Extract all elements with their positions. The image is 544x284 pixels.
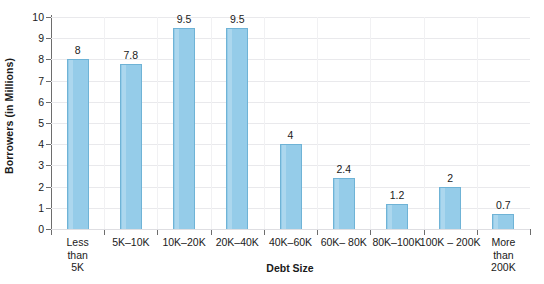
bar-highlight <box>69 60 73 229</box>
bar <box>386 204 408 229</box>
bar-highlight <box>441 188 445 229</box>
y-tick-label-10: 10 <box>4 12 44 23</box>
x-axis-title: Debt Size <box>230 262 350 274</box>
bar-value-label: 2 <box>420 173 480 184</box>
x-tick-mark-7 <box>424 230 425 235</box>
y-tick-label-7: 7 <box>4 76 44 87</box>
bar-value-label: 2.4 <box>314 164 374 175</box>
bar-chart-figure: Borrowers (in Millions) 012345678910 87.… <box>0 0 544 284</box>
bar-value-label: 4 <box>261 130 321 141</box>
gridline-0 <box>51 229 530 230</box>
x-axis-category-label: More than 200K <box>470 236 536 274</box>
gridline-9 <box>51 38 530 39</box>
x-tick-mark-0 <box>51 230 52 235</box>
bar <box>439 187 461 229</box>
bar-value-label: 9.5 <box>207 14 267 25</box>
bar <box>280 144 302 229</box>
x-tick-mark-5 <box>317 230 318 235</box>
bar-highlight <box>494 215 498 229</box>
bar <box>333 178 355 229</box>
bar <box>226 28 248 229</box>
bar <box>492 214 514 229</box>
bar-value-label: 8 <box>48 45 108 56</box>
y-tick-label-8: 8 <box>4 54 44 65</box>
gridline-10 <box>51 17 530 18</box>
bar-value-label: 7.8 <box>101 50 161 61</box>
y-tick-label-6: 6 <box>4 97 44 108</box>
vertical-gridline-3 <box>211 17 212 229</box>
y-tick-label-2: 2 <box>4 182 44 193</box>
x-tick-mark-4 <box>264 230 265 235</box>
y-tick-label-0: 0 <box>4 224 44 235</box>
x-tick-mark-8 <box>477 230 478 235</box>
bar-highlight <box>122 65 126 229</box>
x-tick-mark-6 <box>370 230 371 235</box>
y-tick-label-4: 4 <box>4 139 44 150</box>
vertical-gridline-5 <box>317 17 318 229</box>
bar-value-label: 9.5 <box>154 14 214 25</box>
bar-value-label: 1.2 <box>367 190 427 201</box>
x-tick-mark-3 <box>211 230 212 235</box>
x-tick-mark-2 <box>157 230 158 235</box>
bar <box>173 28 195 229</box>
bar-highlight <box>335 179 339 229</box>
bar-highlight <box>175 29 179 229</box>
bar-highlight <box>388 205 392 229</box>
bar-highlight <box>228 29 232 229</box>
bar <box>67 59 89 229</box>
bar-value-label: 0.7 <box>473 200 533 211</box>
y-tick-label-9: 9 <box>4 33 44 44</box>
x-tick-mark-9 <box>530 230 531 235</box>
y-tick-label-5: 5 <box>4 118 44 129</box>
vertical-gridline-8 <box>477 17 478 229</box>
bar <box>120 64 142 229</box>
bar-highlight <box>282 145 286 229</box>
y-tick-label-3: 3 <box>4 160 44 171</box>
vertical-gridline-4 <box>264 17 265 229</box>
y-tick-label-1: 1 <box>4 203 44 214</box>
x-tick-mark-1 <box>104 230 105 235</box>
